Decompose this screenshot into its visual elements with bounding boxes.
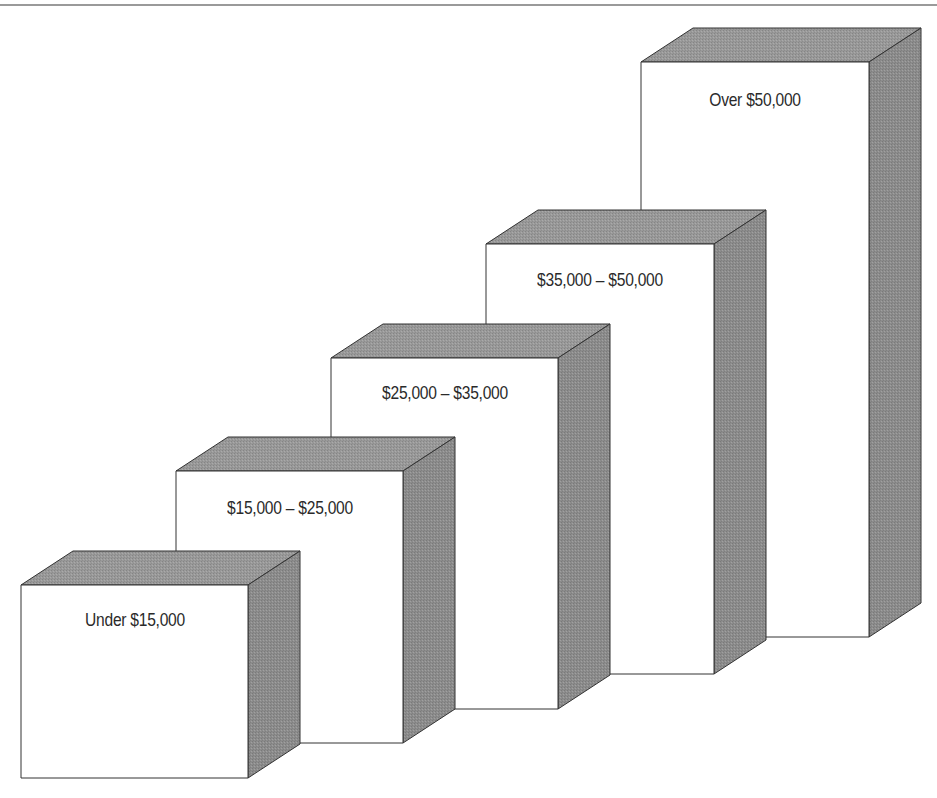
block-side-face	[248, 551, 300, 778]
block-side-face	[869, 28, 921, 637]
block-side-face	[714, 210, 766, 674]
block-label-over-50000: Over $50,000	[699, 89, 811, 111]
block-label-25000-35000: $25,000 – $35,000	[368, 382, 521, 404]
block-side-face	[403, 437, 455, 743]
block-label-15000-25000: $15,000 – $25,000	[213, 497, 366, 519]
block-label-under-15000: Under $15,000	[74, 609, 196, 631]
diagram-canvas: Under $15,000 $15,000 – $25,000 $25,000 …	[0, 0, 937, 798]
block-side-face	[558, 324, 610, 709]
block-1	[21, 551, 300, 778]
block-label-35000-50000: $35,000 – $50,000	[523, 269, 676, 291]
